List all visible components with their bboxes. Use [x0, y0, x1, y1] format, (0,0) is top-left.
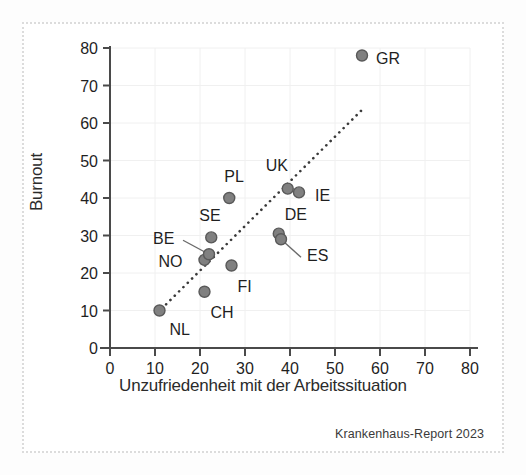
data-point-marker[interactable] — [357, 50, 368, 61]
data-point-label: IE — [315, 187, 330, 204]
data-point-marker[interactable] — [154, 305, 165, 316]
scatter-plot: 0102030405060708001020304050607080NLCHNO… — [0, 0, 526, 475]
x-axis-ticks: 01020304050607080 — [106, 348, 479, 377]
data-point-label: CH — [211, 304, 234, 321]
y-tick-label: 60 — [80, 115, 98, 132]
y-tick-label: 70 — [80, 78, 98, 95]
axes — [100, 46, 478, 348]
x-tick-label: 60 — [371, 360, 389, 377]
data-point-marker[interactable] — [282, 183, 293, 194]
y-tick-label: 50 — [80, 153, 98, 170]
data-point-label: NL — [170, 321, 191, 338]
data-point-marker[interactable] — [224, 193, 235, 204]
y-tick-label: 0 — [89, 340, 98, 357]
data-point-marker[interactable] — [226, 260, 237, 271]
x-tick-label: 10 — [146, 360, 164, 377]
data-point-label: PL — [224, 168, 244, 185]
y-tick-label: 30 — [80, 228, 98, 245]
data-point-marker[interactable] — [204, 249, 215, 260]
trend-line — [162, 110, 362, 309]
y-axis-ticks: 01020304050607080 — [80, 40, 110, 357]
data-point-marker[interactable] — [206, 232, 217, 243]
data-point-label: FI — [238, 278, 252, 295]
data-point-marker[interactable] — [294, 187, 305, 198]
data-point-label: UK — [266, 157, 289, 174]
y-tick-label: 20 — [80, 265, 98, 282]
data-point-label: GR — [376, 50, 400, 67]
data-point-label: NO — [159, 253, 183, 270]
x-tick-label: 70 — [416, 360, 434, 377]
data-point-marker[interactable] — [199, 286, 210, 297]
source-note: Krankenhaus-Report 2023 — [335, 427, 484, 441]
data-point-labels: NLCHNOBESEFIPLDEESUKIEGR — [153, 50, 400, 338]
data-point-label: ES — [307, 247, 328, 264]
x-tick-label: 40 — [281, 360, 299, 377]
data-point-label: DE — [285, 206, 307, 223]
y-tick-label: 10 — [80, 303, 98, 320]
grid-lines — [110, 48, 470, 348]
y-tick-label: 40 — [80, 190, 98, 207]
x-tick-label: 80 — [461, 360, 479, 377]
data-point-label: BE — [153, 230, 174, 247]
y-tick-label: 80 — [80, 40, 98, 57]
x-tick-label: 30 — [236, 360, 254, 377]
data-point-marker[interactable] — [276, 234, 287, 245]
x-axis-title: Unzufriedenheit mit der Arbeitssituation — [0, 376, 526, 396]
y-axis-title: Burnout — [27, 127, 47, 237]
x-tick-label: 50 — [326, 360, 344, 377]
x-tick-label: 20 — [191, 360, 209, 377]
x-tick-label: 0 — [106, 360, 115, 377]
chart-figure: 0102030405060708001020304050607080NLCHNO… — [0, 0, 526, 475]
data-point-label: SE — [199, 207, 220, 224]
